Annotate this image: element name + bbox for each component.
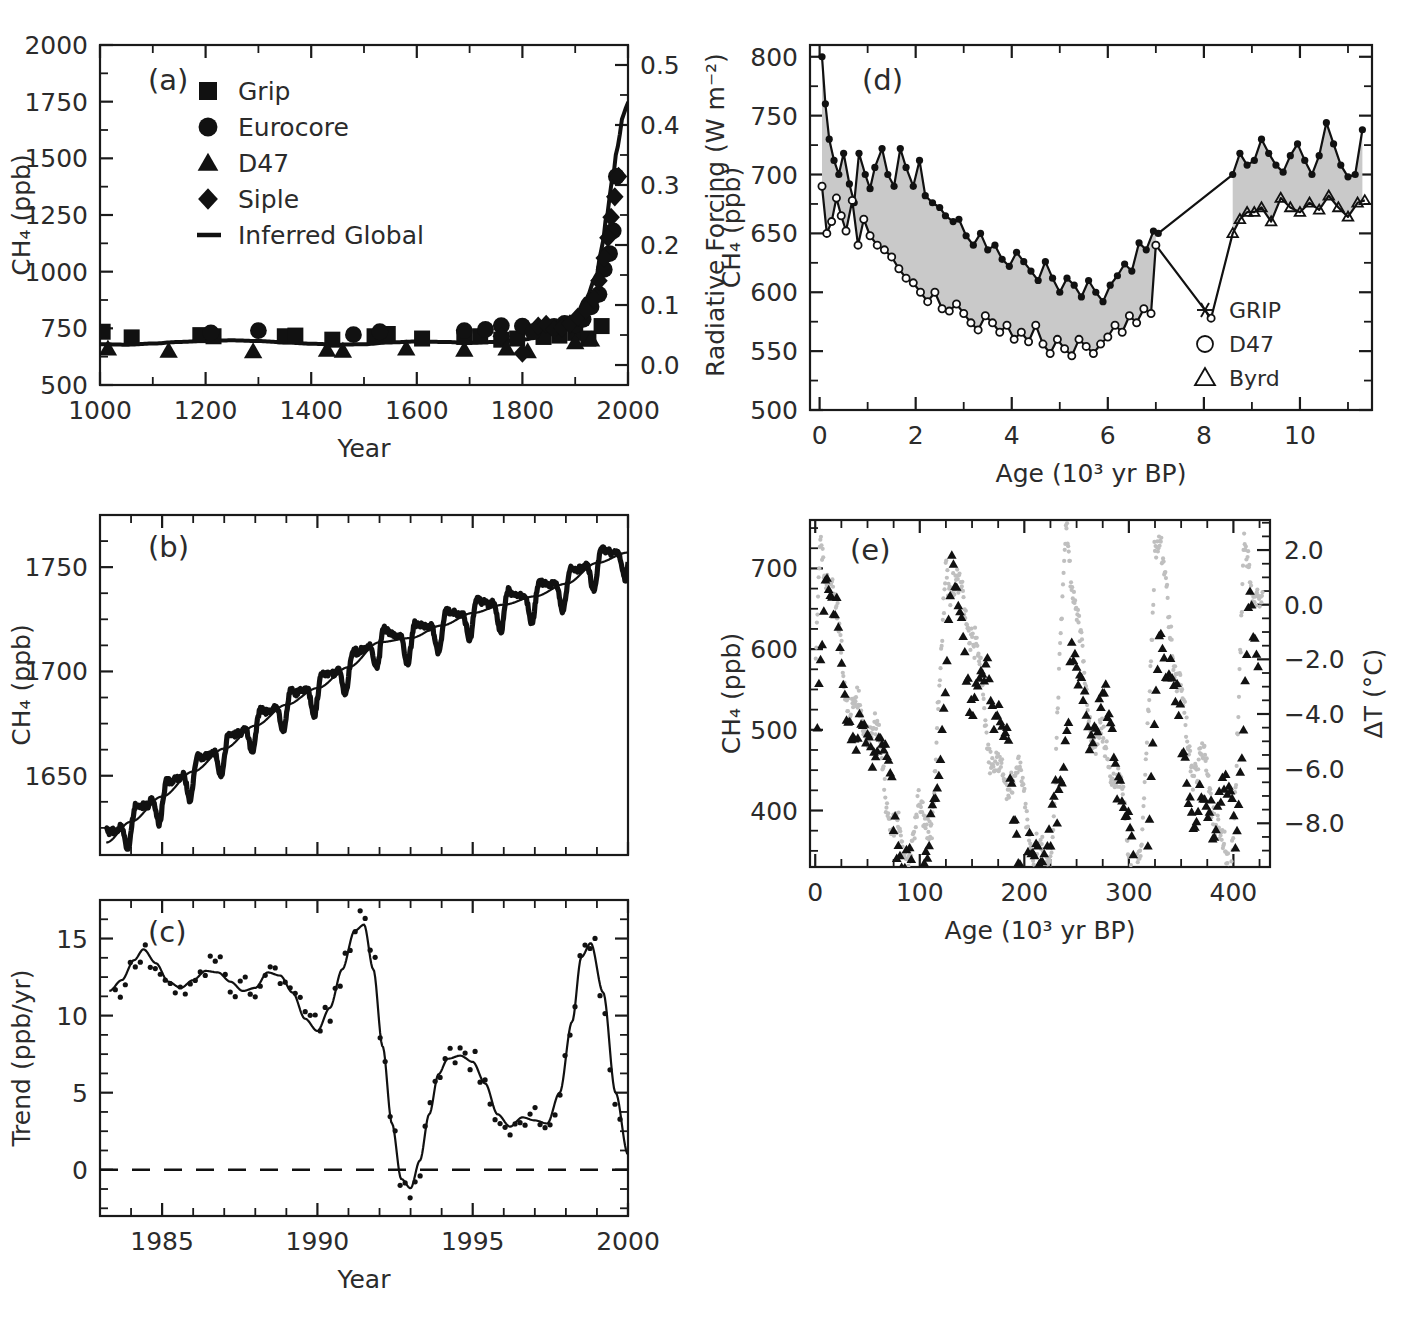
ch4-points	[812, 550, 1262, 871]
svg-text:(a): (a)	[148, 63, 188, 97]
svg-text:Trend (ppb/yr): Trend (ppb/yr)	[7, 970, 36, 1148]
svg-text:1750: 1750	[24, 553, 88, 582]
svg-text:CH₄ (ppb): CH₄ (ppb)	[7, 154, 36, 275]
svg-text:(b): (b)	[148, 530, 189, 564]
panel-c: 0510151985199019952000Trend (ppb/yr)Year…	[0, 880, 700, 1342]
svg-text:15: 15	[56, 925, 88, 954]
svg-text:800: 800	[750, 43, 798, 72]
svg-text:500: 500	[750, 396, 798, 425]
svg-text:200: 200	[1000, 878, 1048, 907]
interpolar-difference-band	[1233, 124, 1363, 234]
svg-text:D47: D47	[238, 149, 289, 178]
svg-text:−2.0: −2.0	[1284, 645, 1345, 674]
svg-text:1800: 1800	[491, 396, 555, 425]
svg-text:700: 700	[750, 161, 798, 190]
svg-text:0.1: 0.1	[640, 291, 680, 320]
svg-text:8: 8	[1196, 421, 1212, 450]
svg-text:6: 6	[1100, 421, 1116, 450]
svg-text:5: 5	[72, 1079, 88, 1108]
svg-text:(d): (d)	[862, 63, 903, 97]
svg-text:Age (10³ yr BP): Age (10³ yr BP)	[945, 916, 1136, 945]
svg-text:−4.0: −4.0	[1284, 700, 1345, 729]
svg-text:(e): (e)	[850, 533, 890, 567]
panel-c-series	[100, 908, 628, 1200]
svg-text:650: 650	[750, 219, 798, 248]
svg-text:CH₄ (ppb): CH₄ (ppb)	[7, 624, 36, 745]
axis-frame	[100, 515, 628, 855]
interpolar-difference-band	[822, 57, 1156, 355]
panel-d-plot-area: 5005506006507007508000246810CH₄ (ppb)Age…	[717, 43, 1372, 488]
svg-text:0.5: 0.5	[640, 51, 680, 80]
svg-text:2000: 2000	[24, 31, 88, 60]
svg-text:1750: 1750	[24, 88, 88, 117]
svg-text:700: 700	[750, 554, 798, 583]
svg-text:600: 600	[750, 635, 798, 664]
svg-text:(c): (c)	[148, 915, 187, 949]
svg-text:0: 0	[72, 1156, 88, 1185]
svg-text:Inferred Global: Inferred Global	[238, 221, 424, 250]
deseasonalised-trend-curve	[106, 553, 628, 843]
svg-text:Byrd: Byrd	[1229, 366, 1280, 391]
svg-text:1400: 1400	[279, 396, 343, 425]
svg-text:D47: D47	[1229, 332, 1274, 357]
svg-text:0.2: 0.2	[640, 231, 680, 260]
panel-b-chart: 165017001750CH₄ (ppb)(b)	[0, 495, 700, 895]
panel-b-series	[106, 547, 628, 849]
svg-text:−6.0: −6.0	[1284, 755, 1345, 784]
svg-text:Year: Year	[337, 1265, 392, 1294]
svg-text:400: 400	[1210, 878, 1258, 907]
svg-text:2000: 2000	[596, 1227, 660, 1256]
panel-e-plot-area: 4005006007002.00.0−2.0−4.0−6.0−8.0010020…	[717, 520, 1388, 945]
svg-text:4: 4	[1004, 421, 1020, 450]
svg-text:ΔT (°C): ΔT (°C)	[1359, 649, 1388, 739]
svg-text:−8.0: −8.0	[1284, 809, 1345, 838]
panel-a-chart: 500750100012501500175020000.00.10.20.30.…	[0, 0, 700, 500]
svg-text:1990: 1990	[286, 1227, 350, 1256]
svg-text:Siple: Siple	[238, 185, 299, 214]
svg-text:0: 0	[812, 421, 828, 450]
svg-text:0.4: 0.4	[640, 111, 680, 140]
panel-d-series	[818, 53, 1370, 359]
svg-text:10: 10	[1284, 421, 1316, 450]
svg-text:600: 600	[750, 278, 798, 307]
svg-text:500: 500	[750, 716, 798, 745]
panel-b: 165017001750CH₄ (ppb)(b)	[0, 495, 700, 895]
panel-a: 500750100012501500175020000.00.10.20.30.…	[0, 0, 700, 500]
svg-text:Age (10³ yr BP): Age (10³ yr BP)	[996, 459, 1187, 488]
svg-text:CH₄ (ppb): CH₄ (ppb)	[717, 633, 746, 754]
svg-text:2.0: 2.0	[1284, 536, 1324, 565]
svg-text:1000: 1000	[68, 396, 132, 425]
panel-e-chart: 4005006007002.00.0−2.0−4.0−6.0−8.0010020…	[700, 495, 1416, 945]
svg-text:550: 550	[750, 337, 798, 366]
svg-text:1650: 1650	[24, 762, 88, 791]
svg-text:10: 10	[56, 1002, 88, 1031]
panel-d: 5005506006507007508000246810CH₄ (ppb)Age…	[700, 0, 1416, 500]
growth-rate-curve	[109, 925, 628, 1188]
panel-e: 4005006007002.00.0−2.0−4.0−6.0−8.0010020…	[700, 495, 1416, 945]
svg-text:0.0: 0.0	[1284, 591, 1324, 620]
svg-text:0.0: 0.0	[640, 351, 680, 380]
svg-text:CH₄ (ppb): CH₄ (ppb)	[717, 167, 746, 288]
svg-text:750: 750	[750, 102, 798, 131]
svg-text:0.3: 0.3	[640, 171, 680, 200]
svg-text:400: 400	[750, 797, 798, 826]
svg-text:1995: 1995	[441, 1227, 505, 1256]
panel-d-chart: 5005506006507007508000246810CH₄ (ppb)Age…	[700, 0, 1416, 500]
svg-text:Eurocore: Eurocore	[238, 113, 349, 142]
svg-text:Year: Year	[337, 434, 392, 463]
panel-a-plot-area: 500750100012501500175020000.00.10.20.30.…	[7, 31, 730, 463]
panel-c-chart: 0510151985199019952000Trend (ppb/yr)Year…	[0, 880, 700, 1342]
svg-text:1200: 1200	[174, 396, 238, 425]
panel-a-legend: GripEurocoreD47SipleInferred Global	[197, 77, 424, 250]
panel-b-plot-area: 165017001750CH₄ (ppb)(b)	[7, 515, 628, 855]
panel-c-plot-area: 0510151985199019952000Trend (ppb/yr)Year…	[7, 900, 660, 1294]
svg-text:100: 100	[896, 878, 944, 907]
svg-text:1600: 1600	[385, 396, 449, 425]
svg-text:Grip: Grip	[238, 77, 290, 106]
svg-text:300: 300	[1105, 878, 1153, 907]
svg-text:2: 2	[908, 421, 924, 450]
svg-text:750: 750	[40, 314, 88, 343]
svg-text:GRIP: GRIP	[1229, 298, 1281, 323]
monthly-ch4-curve	[106, 547, 628, 849]
svg-text:0: 0	[807, 878, 823, 907]
